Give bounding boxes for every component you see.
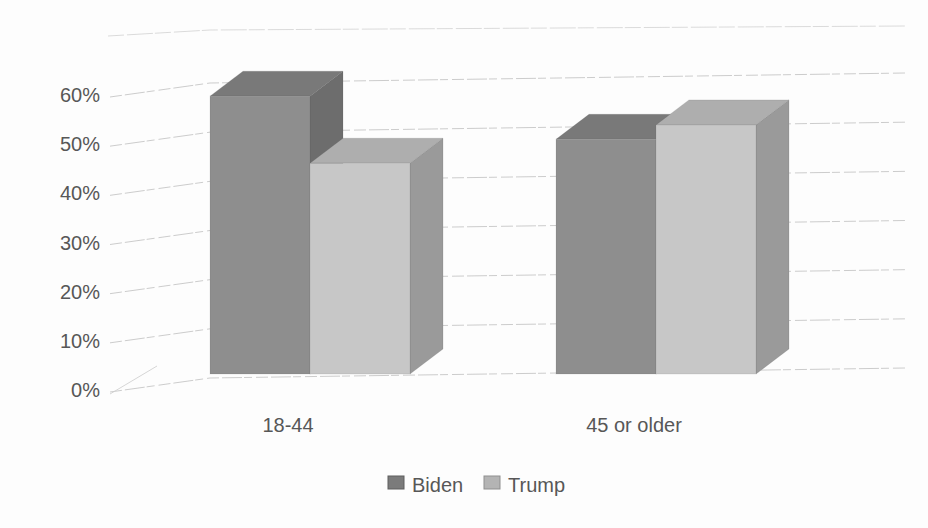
category-labels-layer: 18-4445 or older — [262, 414, 682, 436]
legend-swatch-biden — [388, 476, 404, 489]
bar-biden-45-or-older-front-face — [556, 139, 656, 374]
y-axis-tick-label-50%: 50% — [60, 133, 100, 155]
legend-label-trump: Trump — [508, 474, 565, 496]
legend-item-biden: Biden — [388, 474, 463, 496]
y-axis-tick-label-20%: 20% — [60, 281, 100, 303]
chart-canvas: 0%10%20%30%40%50%60% 18-4445 or older Bi… — [0, 0, 928, 528]
y-axis-tick-label-30%: 30% — [60, 232, 100, 254]
legend-label-biden: Biden — [412, 474, 463, 496]
legend: BidenTrump — [388, 474, 565, 496]
bar-trump-18-44-side-face — [410, 138, 443, 374]
floor-left-edge — [110, 366, 157, 394]
bar-biden-18-44-front-face — [210, 96, 310, 374]
bar-trump-18-44-front-face — [310, 163, 410, 374]
bar-trump-45-or-older — [656, 100, 789, 374]
category-label-45-or-older: 45 or older — [586, 414, 682, 436]
bar-trump-45-or-older-front-face — [656, 125, 756, 374]
back-wall-top-edge — [108, 26, 906, 36]
legend-swatch-trump — [484, 476, 500, 489]
bar-trump-18-44 — [310, 138, 443, 374]
y-axis-tick-label-60%: 60% — [60, 84, 100, 106]
bars-layer — [210, 71, 789, 374]
chart-image: 0%10%20%30%40%50%60% 18-4445 or older Bi… — [0, 0, 928, 528]
y-axis-tick-label-40%: 40% — [60, 182, 100, 204]
category-label-18-44: 18-44 — [262, 414, 313, 436]
y-axis-tick-label-10%: 10% — [60, 330, 100, 352]
bar-trump-45-or-older-side-face — [756, 100, 789, 374]
legend-item-trump: Trump — [484, 474, 565, 496]
y-axis-tick-label-0%: 0% — [71, 379, 100, 401]
y-axis-labels-layer: 0%10%20%30%40%50%60% — [60, 84, 100, 401]
